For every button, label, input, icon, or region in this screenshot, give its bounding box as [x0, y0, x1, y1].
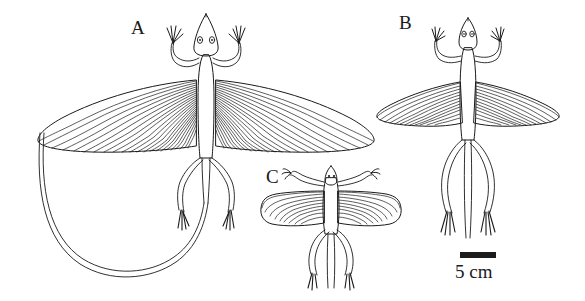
- figure-background: [0, 0, 585, 301]
- panel-label-c: C: [266, 167, 279, 186]
- lizard-figure-illustration: [0, 0, 585, 301]
- scale-bar-label: 5 cm: [455, 262, 492, 281]
- panel-label-b: B: [399, 13, 412, 32]
- scale-bar: [460, 252, 496, 258]
- panel-label-a: A: [131, 18, 145, 37]
